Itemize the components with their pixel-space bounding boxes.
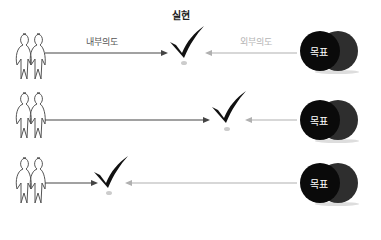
diagram-row-2: 목표: [0, 87, 381, 147]
goal-circle-icon: [300, 31, 359, 74]
checkmark-icon: [212, 91, 246, 131]
goal-label: 목표: [310, 176, 328, 191]
diagram-row-1: 목표: [0, 20, 381, 80]
goal-circle-icon: [300, 100, 359, 143]
goal-label: 목표: [310, 113, 328, 128]
checkmark-icon: [170, 26, 204, 65]
people-icon: [16, 93, 45, 138]
people-icon: [16, 34, 45, 79]
diagram-row-3: 목표: [0, 150, 381, 210]
goal-circle-icon: [300, 163, 359, 206]
people-icon: [16, 158, 45, 203]
goal-label: 목표: [310, 44, 328, 59]
checkmark-icon: [94, 156, 128, 195]
